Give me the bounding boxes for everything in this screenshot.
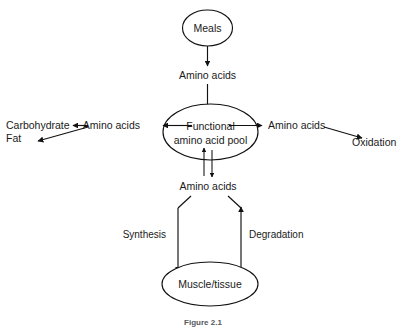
meals-label: Meals: [193, 22, 221, 34]
edge-synthesis-diagonal: [178, 196, 191, 208]
pool-ellipse: [163, 104, 258, 160]
label-fat: Fat: [6, 132, 21, 144]
pool-label-line2: amino acid pool: [174, 134, 248, 146]
node-meals: Meals: [183, 10, 233, 46]
muscle-tissue-label: Muscle/tissue: [178, 278, 242, 290]
edge-degradation-diagonal: [228, 196, 241, 208]
label-degradation: Degradation: [249, 229, 303, 240]
label-intake-amino-acids: Amino acids: [179, 69, 236, 81]
node-functional-amino-acid-pool: Functional amino acid pool: [163, 104, 258, 160]
amino-acid-metabolism-diagram: Meals Amino acids Functional amino acid …: [0, 0, 406, 328]
label-synthesis: Synthesis: [123, 229, 166, 240]
figure-caption: Figure 2.1: [184, 318, 222, 327]
pool-label-line1: Functional: [186, 120, 234, 132]
node-muscle-tissue: Muscle/tissue: [162, 262, 258, 306]
label-turnover-amino-acids: Amino acids: [179, 180, 236, 192]
label-right-amino-acids: Amino acids: [268, 119, 325, 131]
label-carbohydrate: Carbohydrate: [6, 119, 70, 131]
diagram-canvas: Meals Amino acids Functional amino acid …: [0, 0, 406, 328]
label-left-amino-acids: Amino acids: [83, 119, 140, 131]
label-oxidation: Oxidation: [352, 136, 397, 148]
